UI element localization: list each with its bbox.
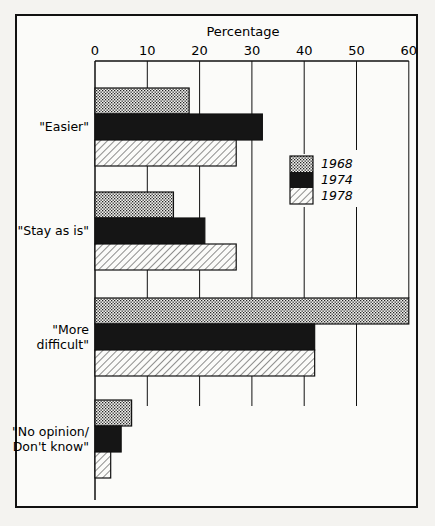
bar-1978 [95,244,236,270]
x-tick-label: 60 [401,43,418,58]
bar-1978 [95,350,315,376]
bar-1974 [95,426,121,452]
bar-1978 [95,140,236,166]
x-tick-label: 0 [91,43,99,58]
legend: 196819741978 [290,156,353,204]
legend-swatch-1978 [290,188,313,204]
bar-1968 [95,88,189,114]
chart-title: Percentage [206,24,279,39]
bar-1978 [95,452,111,478]
category-label: Don't know" [13,439,89,454]
x-tick-label: 10 [139,43,156,58]
bar-1974 [95,324,315,350]
x-tick-label: 40 [296,43,313,58]
legend-swatch-1968 [290,156,313,172]
x-tick-label: 30 [244,43,261,58]
x-axis-ticks: 0102030405060 [91,43,417,58]
category-label: "Stay as is" [18,223,90,238]
x-tick-label: 50 [348,43,365,58]
x-tick-label: 20 [191,43,208,58]
category-label: "No opinion/ [12,424,90,439]
bar-1968 [95,400,132,426]
legend-swatch-1974 [290,172,313,188]
legend-label: 1978 [321,188,353,203]
bar-1968 [95,192,173,218]
bar-1974 [95,218,205,244]
bar-1968 [95,298,409,324]
category-labels: "Easier""Stay as is""Moredifficult""No o… [12,119,90,454]
legend-label: 1968 [321,156,353,171]
legend-label: 1974 [321,172,353,187]
category-label: difficult" [37,337,89,352]
category-label: "Easier" [39,119,89,134]
category-label: "More [52,322,89,337]
bar-chart: Percentage 0102030405060 "Easier""Stay a… [0,0,435,526]
bar-1974 [95,114,262,140]
